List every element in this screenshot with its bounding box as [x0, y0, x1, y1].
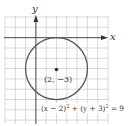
center-label: (2, −3)	[44, 75, 72, 84]
x-axis-arrow-icon	[101, 35, 108, 40]
x-axis-label: x	[110, 31, 116, 42]
equation: (x − 2)2 + (y + 3)2 = 9	[40, 103, 125, 113]
y-axis-label: y	[32, 3, 38, 14]
equation-part-1: (x − 2)	[41, 104, 66, 113]
center-point	[55, 68, 59, 72]
equation-part-2: + (y + 3)	[69, 104, 105, 113]
equation-part-3: = 9	[109, 104, 124, 113]
y-axis-arrow-icon	[34, 15, 39, 22]
